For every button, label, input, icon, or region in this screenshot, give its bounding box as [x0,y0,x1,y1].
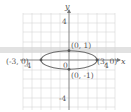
label-3-0: (3, 0) [97,57,117,66]
y-axis-label: y [64,2,70,11]
label-0-neg1: (0, -1) [71,71,94,80]
label-0-1: (0, 1) [71,41,91,50]
point-0-1 [68,49,71,52]
highlight-band [0,47,131,53]
ellipse-graph: y x 4 -4 -4 4 0 (-3, 0) (3, 0) (0, 1) (0… [0,0,131,112]
origin-label: 0 [63,61,68,70]
point-0-neg1 [68,68,71,71]
tick-y-neg4: -4 [59,94,67,103]
tick-y-4: 4 [62,17,67,26]
x-axis-label: x [121,57,126,66]
point-neg3-0 [40,59,43,62]
label-neg3-0: (-3, 0) [6,57,29,66]
